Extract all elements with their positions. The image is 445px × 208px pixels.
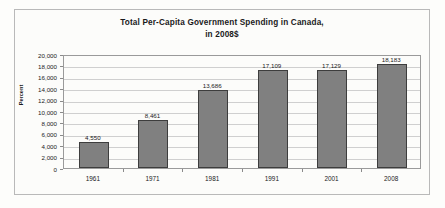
bar-value-label: 4,550 <box>85 134 100 141</box>
y-axis-tick-label: 12,000 <box>13 97 57 104</box>
bar-slot <box>64 56 124 168</box>
bar-slot <box>183 56 243 168</box>
x-axis-tick-label: 1991 <box>242 175 302 182</box>
x-axis-tick-mark <box>123 169 124 172</box>
x-axis-tick-mark <box>242 169 243 172</box>
bar-slot <box>303 56 363 168</box>
chart-figure: Total Per-Capita Government Spending in … <box>0 0 445 208</box>
x-axis-tick-label: 1971 <box>123 175 183 182</box>
chart-title-line-2: in 2008$ <box>30 29 414 41</box>
y-axis-tick-mark <box>60 169 63 170</box>
bar-slot <box>243 56 303 168</box>
y-axis-tick-label: 2,000 <box>13 154 57 161</box>
x-axis-tick-label: 2008 <box>361 175 421 182</box>
y-axis-tick-label: 20,000 <box>13 52 57 59</box>
bar-value-label: 18,183 <box>382 56 401 63</box>
bar-value-label: 13,686 <box>203 82 222 89</box>
bar <box>258 70 288 168</box>
y-axis-tick-label: 8,000 <box>13 120 57 127</box>
bar <box>317 70 347 168</box>
plot-area <box>63 55 421 169</box>
x-axis-tick-label: 1961 <box>63 175 123 182</box>
y-axis-tick-label: 0 <box>13 166 57 173</box>
chart-title-line-1: Total Per-Capita Government Spending in … <box>30 17 414 29</box>
bar-slot <box>362 56 422 168</box>
y-axis-tick-label: 6,000 <box>13 131 57 138</box>
x-axis-tick-label: 1981 <box>182 175 242 182</box>
y-axis-tick-label: 16,000 <box>13 74 57 81</box>
y-axis-tick-label: 18,000 <box>13 63 57 70</box>
bar-value-label: 8,461 <box>145 112 160 119</box>
x-axis-tick-mark <box>302 169 303 172</box>
x-axis-tick-mark <box>361 169 362 172</box>
y-axis-tick-label: 10,000 <box>13 109 57 116</box>
bar <box>377 64 407 168</box>
bar-value-label: 17,129 <box>322 62 341 69</box>
chart-title: Total Per-Capita Government Spending in … <box>30 17 414 40</box>
y-axis-tick-label: 14,000 <box>13 86 57 93</box>
bar <box>198 90 228 168</box>
y-axis-tick-label: 4,000 <box>13 143 57 150</box>
bar <box>138 120 168 168</box>
bar <box>79 142 109 168</box>
x-axis-tick-mark <box>182 169 183 172</box>
bar-value-label: 17,109 <box>262 62 281 69</box>
x-axis-tick-label: 2001 <box>302 175 362 182</box>
